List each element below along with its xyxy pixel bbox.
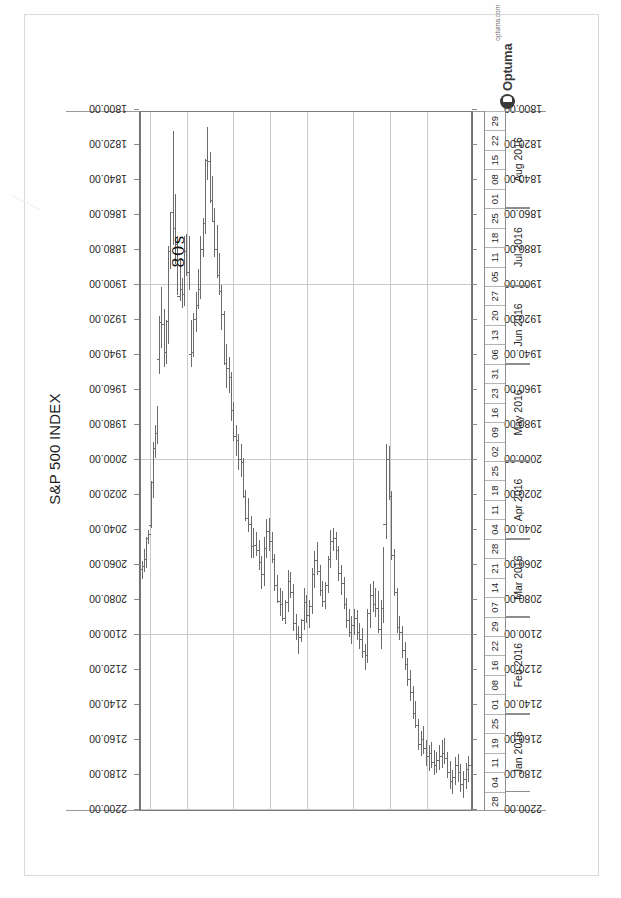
date-axis-day-label: 04 — [485, 772, 505, 791]
price-tick-label: 2020.00 — [89, 488, 127, 500]
price-tick-mark — [134, 179, 139, 180]
ohlc-open-tick — [448, 772, 451, 773]
date-axis-day-label: 16 — [485, 655, 505, 674]
date-axis-day-label: 22 — [485, 636, 505, 655]
gridline-horizontal — [150, 112, 151, 810]
ohlc-bar — [153, 443, 154, 499]
ohlc-open-tick — [275, 585, 278, 586]
ohlc-open-tick — [456, 765, 459, 766]
ohlc-open-tick — [231, 410, 234, 411]
gridline-horizontal — [187, 112, 188, 810]
ohlc-bar — [325, 583, 326, 609]
date-axis-day-label: 15 — [485, 150, 505, 169]
date-axis-month-label: Feb 2016 — [506, 617, 530, 714]
date-axis-day-label: 11 — [485, 500, 505, 519]
ohlc-open-tick — [323, 601, 326, 602]
ohlc-open-tick — [241, 463, 244, 464]
ohlc-bar — [431, 742, 432, 768]
ohlc-bar — [217, 226, 218, 279]
handwritten-annotation: 80s — [168, 235, 188, 268]
price-tick-label: 1980.00 — [89, 418, 127, 430]
ohlc-open-tick — [405, 664, 408, 665]
ohlc-open-tick — [217, 275, 220, 276]
ohlc-open-tick — [142, 566, 145, 567]
price-tick-label: 2140.00 — [89, 698, 127, 710]
ohlc-open-tick — [296, 634, 299, 635]
date-axis-day-label: 11 — [485, 753, 505, 772]
ohlc-open-tick — [212, 221, 215, 222]
ohlc-open-tick — [453, 778, 456, 779]
price-tick-mark — [472, 774, 477, 775]
ohlc-bar — [189, 236, 190, 290]
date-axis-day-label: 01 — [485, 189, 505, 208]
ohlc-open-tick — [397, 627, 400, 628]
ohlc-open-tick — [257, 550, 260, 551]
ohlc-bar — [429, 745, 430, 771]
gridline-vertical — [141, 459, 471, 460]
price-tick-mark — [134, 599, 139, 600]
ohlc-bar — [243, 458, 244, 498]
ohlc-open-tick — [189, 354, 192, 355]
price-tick-mark — [134, 809, 139, 810]
ohlc-bar — [426, 740, 427, 766]
ohlc-bar — [159, 317, 160, 375]
ohlc-bar — [346, 598, 347, 628]
price-tick-mark — [134, 214, 139, 215]
plot-area — [140, 111, 472, 811]
ohlc-open-tick — [392, 555, 395, 556]
date-axis-day-label: 22 — [485, 130, 505, 149]
ohlc-bar — [373, 581, 374, 613]
price-tick-label: 1800.00 — [89, 103, 127, 115]
ohlc-open-tick — [331, 541, 334, 542]
ohlc-bar — [155, 425, 156, 458]
ohlc-open-tick — [344, 604, 347, 605]
price-axis-top: 2200.002180.002160.002140.002120.002100.… — [66, 111, 140, 811]
ohlc-open-tick — [349, 632, 352, 633]
ohlc-bar — [301, 619, 302, 642]
ohlc-bar — [407, 658, 408, 686]
ohlc-bar — [466, 763, 467, 789]
ohlc-open-tick — [267, 531, 270, 532]
scanned-page: S&P 500 INDEX 2200.002180.002160.002140.… — [0, 0, 621, 898]
date-axis-day-label: 20 — [485, 305, 505, 324]
price-tick-label: 1860.00 — [89, 208, 127, 220]
ohlc-bar — [253, 528, 254, 558]
ohlc-bar — [399, 616, 400, 641]
ohlc-bar — [338, 546, 339, 581]
price-tick-label: 1880.00 — [89, 243, 127, 255]
price-tick-mark — [134, 354, 139, 355]
price-tick-label: 2180.00 — [89, 768, 127, 780]
date-axis-day-label: 14 — [485, 578, 505, 597]
price-tick-mark — [472, 599, 477, 600]
ohlc-bar — [365, 644, 366, 670]
ohlc-bar — [285, 600, 286, 625]
ohlc-bar — [391, 492, 392, 560]
ohlc-open-tick — [307, 615, 310, 616]
price-tick-mark — [472, 249, 477, 250]
price-tick-label: 1820.00 — [89, 138, 127, 150]
ohlc-bar — [415, 702, 416, 728]
price-tick-mark — [134, 494, 139, 495]
ohlc-bar — [277, 576, 278, 604]
ohlc-bar — [182, 278, 183, 308]
ohlc-bar — [166, 320, 167, 364]
gridline-horizontal — [353, 112, 354, 810]
ohlc-open-tick — [365, 655, 368, 656]
ohlc-open-tick — [191, 352, 194, 353]
ohlc-bar — [322, 581, 323, 607]
ohlc-bar — [410, 670, 411, 702]
ohlc-open-tick — [280, 604, 283, 605]
price-tick-label: 1960.00 — [89, 383, 127, 395]
gridline-horizontal — [307, 112, 308, 810]
ohlc-open-tick — [347, 620, 350, 621]
price-tick-label: 1840.00 — [89, 173, 127, 185]
ohlc-open-tick — [222, 314, 225, 315]
ohlc-open-tick — [376, 608, 379, 609]
ohlc-bar — [320, 565, 321, 597]
ohlc-open-tick — [164, 352, 167, 353]
price-tick-mark — [472, 704, 477, 705]
ohlc-open-tick — [229, 377, 232, 378]
ohlc-bar — [458, 754, 459, 782]
ohlc-open-tick — [194, 319, 197, 320]
date-axis: 2804111925010816222907142128041118250209… — [484, 111, 538, 811]
